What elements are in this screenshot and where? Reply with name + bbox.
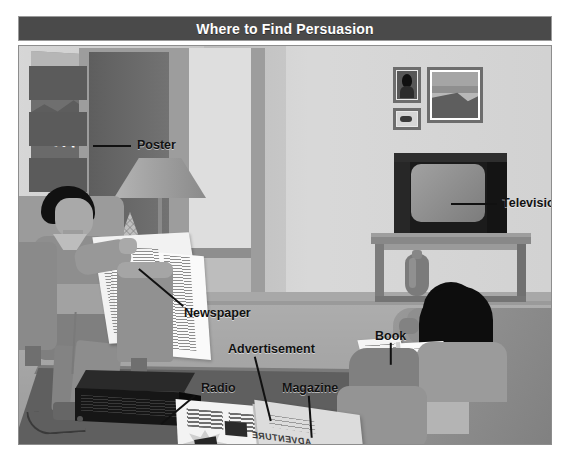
door-panel-2 [29,112,87,146]
callout-leader-television [451,203,497,205]
table-leg-right [517,244,526,302]
armchair-foot-left [25,346,41,366]
page-title: Where to Find Persuasion [196,21,374,37]
television-top [394,153,507,162]
picture-frame-small-detail [400,116,412,122]
callout-label-poster: Poster [137,138,176,152]
wall-pillar [251,48,265,303]
callout-leader-book [390,343,392,365]
callout-label-magazine: Magazine [282,381,338,395]
armchair-arm-left [18,242,57,350]
table-leg-left [375,244,384,302]
callout-label-advertisement: Advertisement [228,342,315,356]
sofa-cushion [417,342,507,402]
wall-panel-right-of-door [189,48,251,248]
radio-knob [77,416,83,422]
man-hand [119,238,137,254]
callout-label-book: Book [375,329,406,343]
page-title-bar: Where to Find Persuasion [18,16,552,41]
callout-label-radio: Radio [201,381,236,395]
callout-leader-poster [93,145,131,147]
radio-top [75,370,195,392]
table-top-highlight [371,233,531,237]
picture-frame-large-horizon [432,86,478,93]
callout-label-television: Television [502,196,552,210]
screenshot-root: Where to Find Persuasion EXICO [0,0,571,462]
television-screen-glare [411,164,485,222]
callout-label-newspaper: Newspaper [184,306,251,320]
portrait-body [400,86,414,98]
living-room-scene: EXICO [18,45,552,445]
advertisement-photo [225,421,248,437]
advertisement-text-block-1 [187,408,224,429]
door-panel-1 [29,66,87,100]
table-back-rail [384,244,517,250]
television-bezel-left [394,162,410,233]
vase-highlight [409,258,416,288]
